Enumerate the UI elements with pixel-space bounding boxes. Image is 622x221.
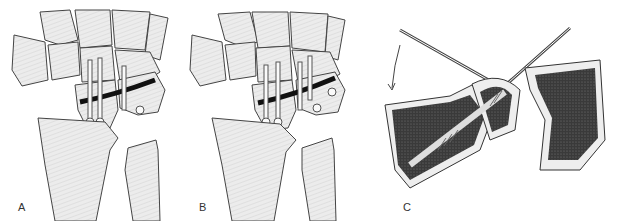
wrist-illustration-b	[180, 0, 380, 221]
panel-label-a: A	[18, 201, 25, 213]
panel-a: A	[0, 0, 190, 221]
panel-label-b: B	[199, 201, 206, 213]
scaphoid-cross-section-c	[380, 0, 622, 221]
wrist-illustration-a	[0, 0, 190, 221]
direction-arrow-icon	[392, 45, 400, 88]
panel-b: B	[180, 0, 380, 221]
panel-c: C	[380, 0, 622, 221]
panel-label-c: C	[403, 201, 411, 213]
